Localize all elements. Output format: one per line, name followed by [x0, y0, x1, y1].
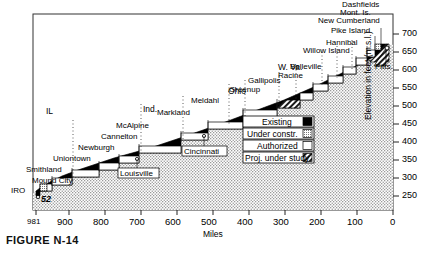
legend-label-authorized: Authorized — [257, 141, 298, 151]
y-tick-500: 500 — [402, 100, 417, 110]
city-label-louisville: Louisville — [120, 169, 153, 178]
dam-label-belleville: Belleville — [290, 62, 322, 71]
x-tick-900: 900 — [57, 216, 73, 227]
dam-label-uniontown: Uniontown — [53, 154, 91, 163]
dam-label-greenup: Greenup — [229, 85, 260, 94]
y-tick-250: 250 — [402, 190, 417, 200]
dam-label-iro: IRO — [11, 186, 25, 195]
x-tick-0: 0 — [390, 216, 395, 227]
dam-label-newburgh: Newburgh — [78, 143, 114, 152]
y-tick-350: 350 — [402, 154, 417, 164]
dam-label-mont-is: Mont. Is. — [340, 8, 371, 17]
y-tick-450: 450 — [402, 118, 417, 128]
legend-label-under-constr: Under constr. — [247, 129, 298, 139]
dam-label-markland: Markland — [157, 108, 190, 117]
y-tick-600: 600 — [402, 64, 417, 74]
dam-label-gallipolis: Gallipolis — [248, 76, 280, 85]
x-tick-800: 800 — [93, 216, 109, 227]
x-tick-300: 300 — [273, 216, 289, 227]
annotation-route-52: 52 — [41, 194, 51, 204]
y-axis-ticks — [393, 34, 399, 196]
legend-label-proj-under-study: Proj. under study — [245, 153, 309, 163]
x-tick-200: 200 — [309, 216, 325, 227]
y-tick-400: 400 — [402, 136, 417, 146]
x-axis-ticks — [36, 210, 393, 215]
dam-label-hannibal: Hannibal — [326, 38, 358, 47]
x-axis-label: Miles — [203, 229, 223, 239]
y-tick-700: 700 — [402, 28, 417, 38]
dam-label-mcalpine: McAlpine — [116, 121, 149, 130]
dam-label-willow-island: Willow Island — [303, 46, 350, 55]
state-label-il: IL — [46, 106, 53, 116]
dam-label-emsworth: Emsworth — [347, 0, 383, 1]
x-tick-100: 100 — [347, 216, 363, 227]
figure-caption: FIGURE N-14 — [6, 234, 79, 246]
x-tick-500: 500 — [201, 216, 217, 227]
dam-label-racine: Racine — [278, 71, 303, 80]
x-tick-600: 600 — [165, 216, 181, 227]
y-tick-300: 300 — [402, 172, 417, 182]
dam-label-meldahl: Meldahl — [191, 96, 219, 105]
dam-label-mound-city-1: Mound City — [32, 176, 72, 185]
x-tick-981: 981 — [27, 217, 40, 226]
city-label-cincinnati: Cincinnati — [184, 147, 219, 156]
x-tick-700: 700 — [129, 216, 145, 227]
state-label-ind: Ind. — [143, 104, 157, 114]
y-axis-label: Elevation in feet (m.s.l.) — [363, 31, 373, 120]
y-tick-550: 550 — [402, 82, 417, 92]
x-tick-400: 400 — [237, 216, 253, 227]
dam-label-pike-island: Pike Island — [331, 26, 370, 35]
y-tick-650: 650 — [402, 46, 417, 56]
dam-label-dashfields: Dashfields — [342, 0, 379, 9]
legend-label-existing: Existing — [262, 117, 292, 127]
dam-label-new-cumberland: New Cumberland — [318, 16, 380, 25]
city-label-pitts: Pitts. — [375, 62, 393, 71]
dam-label-smithland: Smithland — [26, 165, 62, 174]
dam-label-cannelton: Cannelton — [101, 132, 137, 141]
